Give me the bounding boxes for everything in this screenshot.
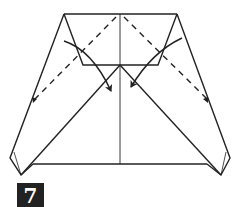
right-fold-arrow-icon — [131, 38, 182, 87]
right-valley-fold — [124, 17, 207, 99]
step-number-badge: 7 — [17, 183, 44, 207]
valley-fold-lines — [35, 17, 207, 99]
inner-flap — [64, 14, 177, 65]
left-outer-edge — [10, 14, 64, 175]
right-outer-edge — [177, 14, 230, 175]
left-corner-crease — [14, 152, 21, 175]
left-diagonal — [21, 65, 120, 175]
origami-diagram — [0, 0, 240, 207]
